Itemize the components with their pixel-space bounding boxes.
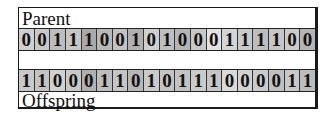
offspring-bit-cell: 0 — [222, 70, 238, 91]
parent-bit-cell: 0 — [19, 29, 35, 50]
offspring-chromosome: 1100011010111000011 — [19, 69, 315, 92]
parent-bit-cell: 1 — [222, 29, 238, 50]
parent-bit-cell: 0 — [175, 29, 191, 50]
parent-bit-cell: 0 — [113, 29, 129, 50]
offspring-bit-cell: 1 — [35, 70, 51, 91]
offspring-bit-cell: 1 — [113, 70, 129, 91]
parent-bit-cell: 1 — [128, 29, 144, 50]
parent-bit-cell: 1 — [160, 29, 176, 50]
offspring-bit-cell: 1 — [191, 70, 207, 91]
offspring-label: Offspring — [22, 91, 96, 110]
offspring-bit-cell: 1 — [144, 70, 160, 91]
offspring-bit-cell: 0 — [66, 70, 82, 91]
offspring-bit-cell: 1 — [207, 70, 223, 91]
offspring-bit-cell: 1 — [285, 70, 301, 91]
parent-bit-cell: 0 — [35, 29, 51, 50]
parent-bit-cell: 1 — [66, 29, 82, 50]
offspring-bit-cell: 1 — [300, 70, 315, 91]
offspring-bit-cell: 1 — [19, 70, 35, 91]
offspring-bit-cell: 0 — [238, 70, 254, 91]
offspring-bit-cell: 1 — [97, 70, 113, 91]
parent-bit-cell: 1 — [82, 29, 98, 50]
parent-bit-cell: 0 — [191, 29, 207, 50]
offspring-bit-cell: 0 — [269, 70, 285, 91]
offspring-bit-cell: 0 — [253, 70, 269, 91]
parent-bit-cell: 0 — [300, 29, 315, 50]
parent-label: Parent — [22, 9, 71, 28]
offspring-bit-cell: 0 — [82, 70, 98, 91]
parent-bit-cell: 0 — [285, 29, 301, 50]
parent-bit-cell: 0 — [144, 29, 160, 50]
offspring-bit-cell: 0 — [160, 70, 176, 91]
crossover-diagram-frame: Parent 0011100101000111100 1100011010111… — [18, 7, 318, 109]
parent-bit-cell: 0 — [97, 29, 113, 50]
parent-chromosome: 0011100101000111100 — [19, 28, 315, 51]
parent-bit-cell: 1 — [50, 29, 66, 50]
parent-bit-cell: 1 — [253, 29, 269, 50]
parent-bit-cell: 0 — [207, 29, 223, 50]
offspring-bit-cell: 0 — [128, 70, 144, 91]
parent-bit-cell: 1 — [238, 29, 254, 50]
offspring-bit-cell: 0 — [50, 70, 66, 91]
offspring-bit-cell: 1 — [175, 70, 191, 91]
parent-bit-cell: 1 — [269, 29, 285, 50]
